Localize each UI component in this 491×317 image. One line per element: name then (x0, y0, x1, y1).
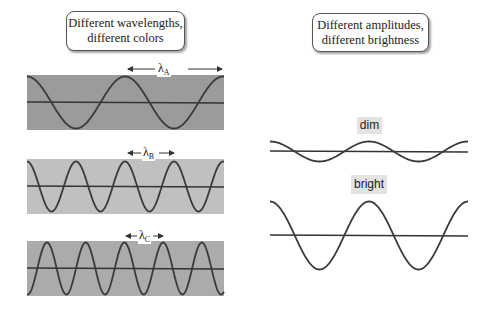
lambda-c-label: λC (138, 228, 151, 244)
bright-label: bright (351, 175, 387, 194)
wave-panel-c (27, 236, 224, 296)
wave-panel-a (27, 69, 224, 130)
wave-diagram (0, 0, 491, 317)
wave-panel-b (27, 153, 224, 214)
dim-wave (270, 142, 468, 162)
lambda-b-label: λB (142, 145, 155, 161)
lambda-a-label: λA (157, 61, 171, 77)
dim-label: dim (357, 117, 382, 134)
bright-wave (270, 202, 468, 270)
